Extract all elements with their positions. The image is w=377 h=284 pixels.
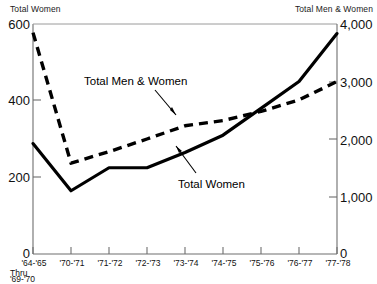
chart-container: Total Women Total Men & Women 600 400 20… (0, 0, 377, 284)
series-line-total-men-and-women (33, 33, 337, 164)
annotation-leader-men-and-women (155, 90, 176, 115)
series-line-total-women (33, 34, 337, 191)
plot-area (0, 0, 377, 284)
